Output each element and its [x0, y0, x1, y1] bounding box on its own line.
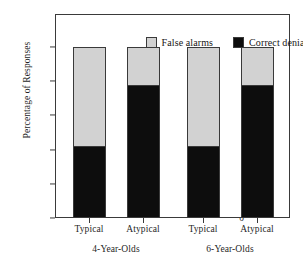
x-group-label: 4-Year-Olds [92, 244, 139, 254]
bar-typical-2 [187, 47, 220, 218]
bars-layer [55, 14, 290, 218]
y-axis-title: Percentage of Responses [22, 10, 32, 170]
bar-atypical-3 [241, 47, 274, 218]
stacked-bar-chart-figure: Percentage of Responses 100806040200 Fal… [0, 0, 303, 267]
x-tick-label: Atypical [240, 224, 274, 234]
bar-segment-correct-denials [128, 85, 159, 217]
x-tick-mark [89, 218, 90, 223]
x-tick-label: Typical [74, 224, 103, 234]
x-tick-mark [257, 218, 258, 223]
bar-segment-correct-denials [74, 146, 105, 217]
x-group-label: 6-Year-Olds [206, 244, 253, 254]
bar-atypical-1 [127, 47, 160, 218]
x-tick-mark [143, 218, 144, 223]
x-tick-label: Typical [188, 224, 217, 234]
x-tick-mark [203, 218, 204, 223]
bar-segment-correct-denials [188, 146, 219, 217]
bar-segment-false-alarms [74, 48, 105, 146]
bar-typical-0 [73, 47, 106, 218]
bar-segment-false-alarms [242, 48, 273, 85]
bar-segment-false-alarms [128, 48, 159, 85]
x-tick-label: Atypical [126, 224, 160, 234]
bar-segment-false-alarms [188, 48, 219, 146]
bar-segment-correct-denials [242, 85, 273, 217]
